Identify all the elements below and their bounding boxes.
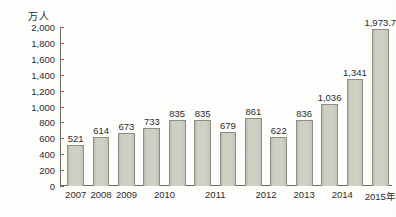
- bar: 1,341: [347, 79, 364, 186]
- y-axis-tick-label: 1,600: [31, 53, 60, 64]
- bar: 679: [220, 132, 237, 186]
- y-axis-tick-label: 800: [39, 117, 60, 128]
- y-axis-tick-label: 400: [39, 149, 60, 160]
- bar-value-label: 521: [68, 133, 84, 144]
- y-axis-tick: 1,200: [60, 91, 64, 92]
- bar-value-label: 673: [119, 121, 135, 132]
- x-axis-label: 2010: [154, 189, 175, 200]
- bar-value-label: 835: [169, 108, 185, 119]
- x-axis-label: 2015年: [365, 189, 396, 203]
- y-axis-tick-label: 200: [39, 165, 60, 176]
- bar: 861: [245, 118, 262, 186]
- y-axis-tick-label: 1,000: [31, 101, 60, 112]
- bar-value-label: 861: [245, 106, 261, 117]
- x-axis-label: 2014: [332, 189, 353, 200]
- y-axis-tick: 200: [60, 170, 64, 171]
- y-axis-tick-label: 2,000: [31, 22, 60, 33]
- y-axis-tick: 1,000: [60, 107, 64, 108]
- y-axis-tick: 600: [60, 138, 64, 139]
- bar: 733: [143, 128, 160, 186]
- bar: 673: [118, 133, 135, 187]
- bar-value-label: 679: [220, 120, 236, 131]
- bar-value-label: 733: [144, 116, 160, 127]
- bar-value-label: 614: [93, 125, 109, 136]
- bar: 1,036: [321, 104, 338, 186]
- y-axis-tick: 800: [60, 122, 64, 123]
- bar: 835: [169, 120, 186, 186]
- x-axis-label: 2012: [255, 189, 276, 200]
- y-axis-tick: 400: [60, 154, 64, 155]
- gridline: [61, 91, 392, 92]
- bar-value-label: 1,036: [318, 92, 342, 103]
- y-axis-tick-label: 0: [50, 181, 60, 192]
- x-axis-label: 2013: [294, 189, 315, 200]
- x-axis-label: 2007: [65, 189, 86, 200]
- bar: 836: [296, 120, 313, 186]
- plot-area: 02004006008001,0001,2001,4001,6001,8002,…: [60, 27, 390, 186]
- gridline: [61, 27, 392, 28]
- y-axis-tick-label: 1,800: [31, 37, 60, 48]
- y-axis-tick: 1,400: [60, 75, 64, 76]
- bar: 521: [67, 145, 84, 186]
- bar-value-label: 1,973.7: [364, 17, 396, 28]
- y-axis-tick: 1,800: [60, 43, 64, 44]
- bar-value-label: 1,341: [343, 67, 367, 78]
- bar-value-label: 836: [296, 108, 312, 119]
- bar: 622: [270, 137, 287, 186]
- y-axis-tick: 1,600: [60, 59, 64, 60]
- x-axis-label: 2011: [205, 189, 225, 200]
- bar-value-label: 835: [195, 108, 211, 119]
- y-axis-tick: 0: [60, 186, 64, 187]
- y-axis-tick: 2,000: [60, 27, 64, 28]
- bar: 614: [93, 137, 110, 186]
- y-axis-tick-label: 1,400: [31, 69, 60, 80]
- bar: 835: [194, 120, 211, 186]
- bar-value-label: 622: [271, 125, 287, 136]
- bar: 1,973.7: [372, 29, 389, 186]
- x-axis-label: 2008: [90, 189, 111, 200]
- y-axis-tick-label: 1,200: [31, 85, 60, 96]
- x-axis-label: 2009: [116, 189, 137, 200]
- gridline: [61, 59, 392, 60]
- y-axis-tick-label: 600: [39, 133, 60, 144]
